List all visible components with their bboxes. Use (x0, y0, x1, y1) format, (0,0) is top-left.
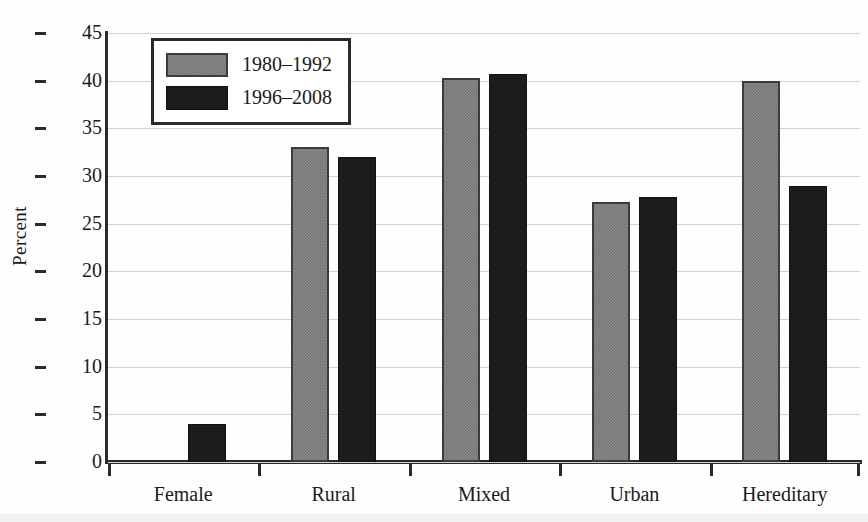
y-axis-tick-label: 0 (56, 451, 102, 471)
bar (338, 157, 376, 462)
bar (188, 424, 226, 462)
bar (789, 186, 827, 462)
y-axis-tick-label: 45 (56, 22, 102, 42)
y-axis-tick (35, 223, 46, 226)
y-axis-tick-label: 10 (56, 356, 102, 376)
x-axis-tick-labels: FemaleRuralMixedUrbanHereditary (108, 483, 868, 511)
y-axis-tick-label: 35 (56, 117, 102, 137)
y-axis-tick-label: 5 (56, 403, 102, 423)
x-axis-tick (258, 463, 261, 476)
y-axis-tick (35, 270, 46, 273)
x-axis-tick-label: Mixed (404, 483, 564, 506)
y-axis-tick (35, 175, 46, 178)
legend-label: 1996–2008 (242, 86, 332, 109)
x-axis-tick-label: Urban (554, 483, 714, 506)
x-axis-tick (409, 463, 412, 476)
y-axis-tick-label: 30 (56, 165, 102, 185)
y-axis-tick (35, 127, 46, 130)
y-axis-tick-label: 25 (56, 213, 102, 233)
bar (442, 78, 480, 462)
bar (489, 74, 527, 462)
y-axis-tick-label: 20 (56, 260, 102, 280)
bar (592, 202, 630, 462)
y-axis-tick (35, 461, 46, 464)
bar (639, 197, 677, 462)
legend-item: 1980–1992 (166, 48, 332, 81)
y-axis-title: Percent (9, 176, 31, 296)
bar (742, 81, 780, 462)
x-axis-ticks (108, 463, 860, 477)
y-axis-tick (35, 80, 46, 83)
x-axis-tick (710, 463, 713, 476)
y-axis-tick-labels: 051015202530354045 (46, 33, 102, 462)
y-axis-tick (35, 318, 46, 321)
x-axis-tick (108, 463, 111, 476)
bar (291, 147, 329, 462)
chart-legend: 1980–19921996–2008 (151, 38, 351, 125)
legend-swatch (166, 86, 228, 110)
y-axis-tick (35, 413, 46, 416)
x-axis-tick-label: Rural (254, 483, 414, 506)
legend-swatch (166, 53, 228, 77)
y-axis-tick (35, 32, 46, 35)
legend-item: 1996–2008 (166, 81, 332, 114)
page-edge (0, 514, 868, 522)
x-axis-tick-label: Hereditary (705, 483, 865, 506)
y-axis-tick (35, 366, 46, 369)
x-axis-tick (857, 463, 860, 476)
x-axis-tick (559, 463, 562, 476)
legend-label: 1980–1992 (242, 53, 332, 76)
y-axis-tick-label: 40 (56, 70, 102, 90)
y-axis-tick-label: 15 (56, 308, 102, 328)
x-axis-tick-label: Female (103, 483, 263, 506)
chart-figure: Percent 051015202530354045 FemaleRuralMi… (0, 0, 868, 522)
